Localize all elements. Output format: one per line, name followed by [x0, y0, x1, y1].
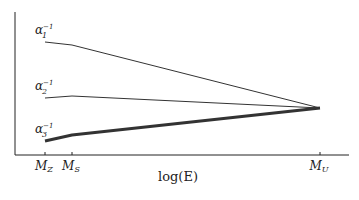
x-tick-label: MS [61, 159, 80, 174]
series-label-alpha1: α−11 [35, 23, 53, 40]
series-line-alpha1 [45, 42, 320, 108]
series-line-alpha3 [45, 108, 320, 141]
series-lines [45, 42, 320, 141]
series-label-alpha2: α−12 [35, 79, 53, 96]
series-label-alpha3: α−13 [35, 122, 53, 139]
series-labels: α−11α−12α−13 [35, 23, 53, 139]
x-axis-label: log(E) [158, 169, 198, 184]
coupling-unification-chart: MZMSMU α−11α−12α−13 log(E) [0, 0, 359, 200]
x-tick-label: MU [308, 159, 328, 174]
x-tick-label: MZ [34, 159, 53, 174]
chart-svg: MZMSMU α−11α−12α−13 log(E) [0, 0, 359, 200]
